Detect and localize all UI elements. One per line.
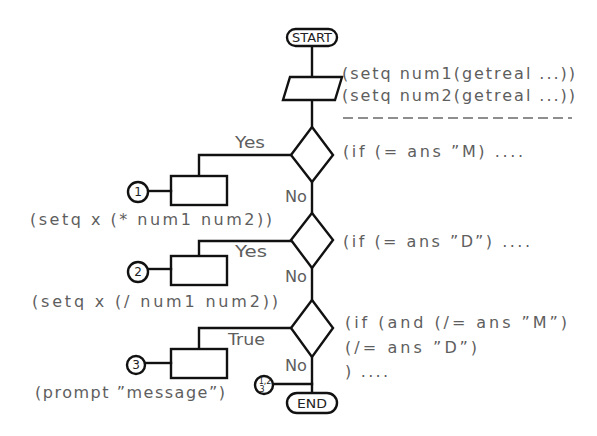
process-2: 2 (setq x (/ num1 num2)) [32, 256, 278, 311]
decision-2-no-label: No [285, 268, 307, 286]
input-block: (setq num1(getreal ...)) (setq num2(getr… [283, 64, 575, 118]
decision-3-true-label: True [227, 331, 265, 349]
start-label: START [292, 31, 333, 45]
decision-1-condition: (if (= ans ”M) .... [343, 142, 523, 161]
decision-3-condition-line-2: (/= ans ”D”) [345, 338, 477, 357]
end-label: END [297, 397, 327, 411]
decision-3-condition-line-3: ) .... [345, 362, 388, 381]
decision-3: (if (and (/= ans ”M”) (/= ans ”D”) ) ...… [199, 300, 567, 381]
connector-2-label: 2 [134, 265, 142, 279]
end-terminal: END [287, 393, 337, 413]
start-terminal: START [287, 29, 337, 46]
connector-1-label: 1 [134, 185, 142, 199]
input-code-line-1: (setq num1(getreal ...)) [342, 64, 575, 83]
decision-1-yes-label: Yes [234, 134, 265, 152]
decision-2-yes-label: Yes [234, 243, 268, 261]
decision-1-yes-branch [199, 155, 291, 176]
process-1-code: (setq x (* num1 num2)) [30, 210, 272, 229]
process-1: 1 (setq x (* num1 num2)) [30, 176, 272, 229]
decision-1: (if (= ans ”M) .... Yes No [199, 127, 523, 206]
process-3: 3 (prompt ”message”) [35, 349, 227, 402]
decision-3-no-label: No [285, 357, 307, 375]
merge-connector: 1,2 3 [255, 376, 312, 394]
flowchart: START (setq num1(getreal ...)) (setq num… [0, 0, 597, 436]
merge-connector-bottom-label: 3 [259, 385, 264, 394]
decision-3-condition-line-1: (if (and (/= ans ”M”) [345, 313, 567, 332]
decision-1-no-label: No [285, 188, 307, 206]
decision-2-condition: (if (= ans ”D”) .... [343, 232, 530, 251]
process-3-code: (prompt ”message”) [35, 383, 225, 402]
process-2-code: (setq x (/ num1 num2)) [32, 292, 278, 311]
connector-3-label: 3 [132, 358, 140, 372]
input-code-line-2: (setq num2(getreal ...)) [342, 86, 575, 105]
